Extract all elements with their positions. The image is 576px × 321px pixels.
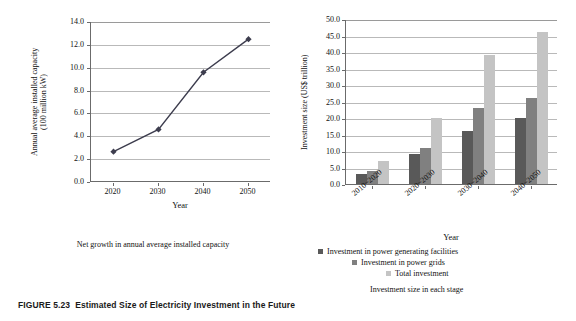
line-chart-plot-area	[90, 22, 270, 182]
bar-chart-legend-caption-text: Investment size in each stage	[370, 285, 463, 294]
bar-chart-x-axis-label: Year	[345, 232, 557, 242]
legend-swatch-icon	[352, 260, 357, 265]
bar-chart-bar	[484, 55, 495, 184]
figure-caption-number: FIGURE 5.23	[18, 300, 70, 310]
line-chart-y-tick-label: 0.0	[50, 178, 84, 186]
bar-chart-legend-item[interactable]: Total investment	[386, 268, 576, 279]
line-chart-data-point	[110, 149, 116, 155]
bar-chart-gridline	[346, 37, 557, 38]
line-chart-y-tick-label: 14.0	[50, 18, 84, 26]
line-chart-x-axis-label: Year	[90, 200, 270, 210]
bar-chart-plot-area	[345, 20, 557, 185]
legend-swatch-icon	[318, 249, 323, 254]
line-chart-x-tick-label: 2050	[234, 188, 262, 196]
bar-chart-y-tick-label: 50.0	[308, 16, 340, 24]
line-chart-x-tick-mark	[113, 183, 114, 186]
figure-container: Annual average installed capacity (100 m…	[0, 0, 576, 321]
figure-caption-text: Estimated Size of Electricity Investment…	[75, 300, 295, 310]
bar-chart-y-tick-label: 0.0	[308, 181, 340, 189]
bar-chart-y-tick-mark	[342, 185, 345, 186]
bar-chart-x-axis-label-text: Year	[443, 232, 459, 242]
bar-chart-y-tick-label: 25.0	[308, 99, 340, 107]
bar-chart-bar	[462, 131, 473, 184]
bar-chart-x-tick-mark	[425, 186, 426, 189]
bar-chart-legend-label: Investment in power generating facilitie…	[327, 247, 458, 256]
line-chart-y-axis-label-line2: (100 million kW)	[39, 74, 48, 130]
bar-chart-x-tick-mark	[372, 186, 373, 189]
line-chart-y-tick-label: 2.0	[50, 155, 84, 163]
bar-chart-y-tick-label: 20.0	[308, 115, 340, 123]
bar-chart-y-tick-label: 5.0	[308, 165, 340, 173]
line-chart-x-tick-label: 2020	[99, 188, 127, 196]
line-chart-polyline	[114, 39, 249, 152]
line-chart-x-axis-label-text: Year	[172, 200, 188, 210]
line-chart-y-tick-label: 12.0	[50, 41, 84, 49]
line-chart-y-tick-label: 10.0	[50, 64, 84, 72]
line-chart-y-axis-label: Annual average installed capacity (100 m…	[30, 22, 50, 182]
bar-chart-legend-item[interactable]: Investment in power grids	[352, 257, 576, 268]
line-chart-sub-caption: Net growth in annual average installed c…	[22, 240, 284, 249]
bar-chart-y-tick-label: 15.0	[308, 132, 340, 140]
line-chart-y-axis-label-line1: Annual average installed capacity	[30, 48, 39, 156]
line-chart-x-tick-mark	[158, 183, 159, 186]
bar-chart-x-tick-mark	[531, 186, 532, 189]
bar-chart-legend-label: Investment in power grids	[361, 258, 445, 267]
bar-chart-y-tick-label: 10.0	[308, 148, 340, 156]
bar-chart-legend-caption: Investment size in each stage	[370, 285, 463, 294]
line-chart-x-tick-label: 2040	[189, 188, 217, 196]
line-chart-y-tick-label: 6.0	[50, 109, 84, 117]
bar-chart-y-tick-label: 40.0	[308, 49, 340, 57]
line-chart-series	[91, 22, 271, 182]
line-chart-panel: Annual average installed capacity (100 m…	[22, 8, 284, 263]
line-chart-x-tick-mark	[248, 183, 249, 186]
bar-chart-bar	[537, 32, 548, 184]
bar-chart-panel: Investment size (US$ trillion) 0.05.010.…	[290, 8, 576, 298]
line-chart-x-tick-mark	[203, 183, 204, 186]
bar-chart-gridline	[346, 70, 557, 71]
bar-chart-gridline	[346, 53, 557, 54]
figure-caption: FIGURE 5.23Estimated Size of Electricity…	[18, 300, 295, 310]
bar-chart-bar	[515, 118, 526, 184]
line-chart-y-tick-mark	[87, 182, 90, 183]
bar-chart-y-tick-label: 30.0	[308, 82, 340, 90]
line-chart-y-tick-label: 4.0	[50, 132, 84, 140]
line-chart-x-tick-label: 2030	[144, 188, 172, 196]
bar-chart-legend: Investment in power generating facilitie…	[290, 246, 576, 279]
bar-chart-legend-item[interactable]: Investment in power generating facilitie…	[318, 246, 576, 257]
bar-chart-y-tick-label: 35.0	[308, 66, 340, 74]
line-chart-y-tick-label: 8.0	[50, 87, 84, 95]
bar-chart-gridline	[346, 86, 557, 87]
bar-chart-legend-label: Total investment	[395, 269, 448, 278]
bar-chart-y-tick-label: 45.0	[308, 33, 340, 41]
bar-chart-gridline	[346, 20, 557, 21]
bar-chart-x-tick-mark	[478, 186, 479, 189]
legend-swatch-icon	[386, 271, 391, 276]
line-chart-sub-caption-text: Net growth in annual average installed c…	[77, 240, 229, 249]
